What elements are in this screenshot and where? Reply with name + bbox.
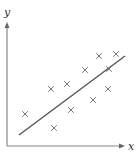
scatter-plot: y x — [0, 0, 137, 157]
y-axis: y — [3, 6, 11, 146]
x-axis: x — [7, 140, 135, 153]
data-points — [22, 51, 119, 131]
cross-marker-icon — [113, 51, 119, 57]
cross-marker-icon — [96, 53, 102, 59]
cross-marker-icon — [64, 81, 70, 87]
cross-marker-icon — [105, 86, 111, 92]
cross-marker-icon — [90, 97, 96, 103]
cross-marker-icon — [48, 86, 54, 92]
cross-marker-icon — [68, 107, 74, 113]
cross-marker-icon — [82, 67, 88, 73]
cross-marker-icon — [51, 125, 57, 131]
y-axis-arrow-icon — [5, 22, 10, 28]
x-axis-arrow-icon — [119, 144, 125, 149]
cross-marker-icon — [22, 111, 28, 117]
x-axis-label: x — [128, 140, 135, 153]
trend-line — [19, 56, 125, 135]
y-axis-label: y — [3, 6, 11, 19]
